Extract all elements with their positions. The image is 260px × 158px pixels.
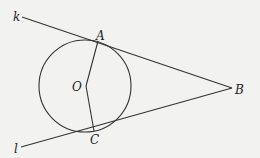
geometry-diagram: k A B O C l (0, 0, 260, 158)
label-a: A (95, 29, 105, 43)
tangent-line-l (21, 88, 232, 147)
label-o: O (72, 80, 82, 94)
label-c: C (90, 133, 99, 147)
label-k: k (13, 10, 20, 24)
circle-o (39, 40, 131, 132)
radius-oc (86, 86, 94, 131)
label-b: B (234, 83, 244, 97)
label-l: l (14, 142, 18, 156)
radius-oa (86, 41, 98, 86)
